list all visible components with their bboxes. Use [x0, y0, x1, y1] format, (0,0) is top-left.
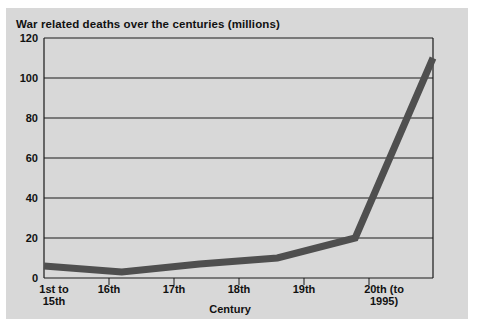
chart-figure: War related deaths over the centuries (m…	[0, 0, 478, 329]
plot-svg	[0, 0, 478, 329]
data-series-line	[44, 58, 433, 272]
x-axis-title: Century	[0, 303, 460, 315]
plot-area: 120 100 80 60 40 20 0	[0, 0, 478, 329]
